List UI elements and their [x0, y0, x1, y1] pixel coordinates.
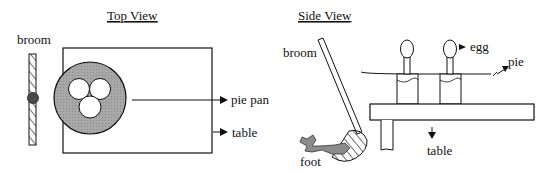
- diagram: Top View broom pie pan table: [0, 0, 553, 173]
- broom-dot: [28, 93, 39, 104]
- pie-break: [493, 72, 497, 76]
- egg-cup-left: [397, 74, 418, 104]
- side-broom-label: broom: [283, 45, 317, 60]
- top-view-title: Top View: [107, 8, 158, 23]
- pie-pan-arrow: [132, 96, 228, 104]
- egg-cup-right: [440, 74, 461, 104]
- egg-arrow: [459, 44, 466, 50]
- side-broom: [318, 38, 367, 161]
- egg-circle: [79, 96, 101, 118]
- side-pie-label: pie: [508, 54, 524, 69]
- table-arrow-side: [428, 127, 436, 139]
- table-arrow-top: [213, 128, 228, 136]
- top-pie-pan-label: pie pan: [231, 92, 269, 107]
- top-table-label: table: [232, 125, 257, 140]
- side-view: Side View broom foot: [283, 8, 534, 169]
- side-table-leg: [381, 120, 393, 150]
- top-view: Top View broom pie pan table: [17, 8, 269, 153]
- foot: [300, 135, 350, 154]
- side-table-top: [370, 104, 534, 120]
- side-view-title: Side View: [298, 8, 352, 23]
- top-broom-label: broom: [17, 32, 51, 47]
- egg-right: [444, 40, 457, 74]
- top-pie-pan: [54, 62, 126, 134]
- side-table-label: table: [427, 143, 452, 158]
- top-broom: [28, 54, 39, 145]
- pie-surface: [361, 72, 491, 74]
- side-foot-label: foot: [300, 154, 321, 169]
- egg-left: [401, 40, 414, 74]
- side-egg-label: egg: [470, 39, 489, 54]
